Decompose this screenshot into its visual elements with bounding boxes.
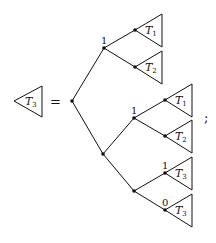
tree-node [133, 28, 137, 32]
subtree-triangle: T2 [165, 120, 192, 153]
subtree-label: T3 [175, 204, 187, 218]
lhs-subtree-label: T3 [25, 95, 37, 109]
tree-edge [72, 101, 103, 154]
subtree-triangle: T2 [135, 51, 162, 84]
subtree-label: T1 [145, 24, 157, 38]
tree-edge [104, 30, 135, 48]
subtree-label: T2 [175, 130, 187, 144]
tree-edge [104, 48, 135, 67]
subtree-label: T2 [145, 61, 157, 75]
tree-node [132, 189, 136, 193]
tree-node [132, 116, 136, 120]
tree-edge [134, 191, 165, 210]
subtree-triangle: T3 [165, 194, 192, 227]
tree-node [163, 208, 167, 212]
tree-node [70, 99, 74, 103]
subtree-triangle: T3 [165, 157, 192, 190]
tree-edge [72, 48, 104, 101]
node-label: 1 [101, 35, 107, 46]
node-label: 0 [162, 197, 168, 208]
subtree-triangle: T1 [165, 84, 192, 117]
subtree-label: T1 [175, 94, 187, 108]
subtree-triangles: T1T2T1T2T3T3 [135, 14, 192, 227]
tree-node [163, 171, 167, 175]
tree-node [163, 98, 167, 102]
tree-edge [134, 100, 165, 118]
tree-edge [103, 118, 134, 154]
tree-node [133, 65, 137, 69]
tree-node [163, 134, 167, 138]
node-label: 1 [162, 160, 168, 171]
tree-diagram: T3 = ; T1T2T1T2T3T3 1110 [0, 0, 216, 243]
tree-node [102, 46, 106, 50]
subtree-label: T3 [175, 167, 187, 181]
tree-edge [103, 154, 134, 191]
equals-sign: = [50, 94, 61, 109]
tree-edge [134, 173, 165, 191]
semicolon: ; [204, 110, 208, 125]
node-label: 1 [131, 105, 137, 116]
lhs-subtree-triangle: T3 [14, 86, 42, 117]
tree-node [101, 152, 105, 156]
subtree-triangle: T1 [135, 14, 162, 47]
tree-edge [134, 118, 165, 136]
